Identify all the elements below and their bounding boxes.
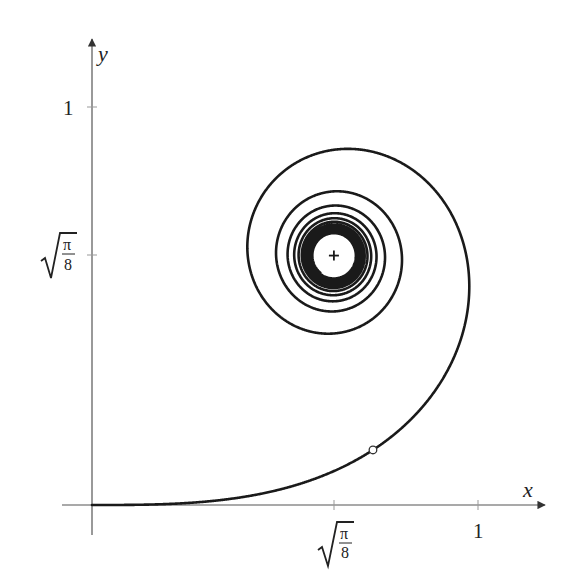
limit-point-plus-icon [329, 251, 339, 261]
x-axis-label: x [522, 477, 533, 502]
fraction-denominator: 8 [341, 544, 349, 561]
curve-point-marker [369, 446, 377, 454]
x-tick-label-1: 1 [473, 519, 484, 543]
y-axis-label: y [96, 41, 108, 66]
x-tick-label-sqrt-pi-over-8: π 8 [318, 522, 354, 566]
plot-area: x y 1 1 π 8 π 8 [0, 0, 571, 588]
y-tick-label-1: 1 [63, 96, 74, 120]
y-tick-label-sqrt-pi-over-8: π 8 [41, 233, 77, 278]
fraction-numerator: π [340, 525, 348, 542]
clothoid-curve [92, 149, 469, 505]
fraction-numerator: π [63, 236, 71, 253]
fraction-denominator: 8 [64, 256, 72, 273]
